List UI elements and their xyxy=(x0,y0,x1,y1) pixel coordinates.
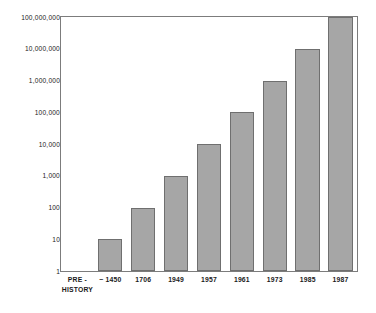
x-tick-label-line: PRE - xyxy=(68,276,87,283)
bars-layer xyxy=(61,17,357,271)
x-tick-label: 1987 xyxy=(324,275,357,285)
x-tick-label-line: 1987 xyxy=(333,276,349,283)
y-tick: 100,000 xyxy=(0,107,68,117)
y-tick: 1,000 xyxy=(0,171,68,181)
bar-slot xyxy=(98,17,122,271)
y-tick-label: 1,000,000 xyxy=(29,77,63,84)
bar[interactable] xyxy=(230,112,254,271)
pi-digits-bar-chart: NUMBER OF DIGITS OF PI 1101001,00010,000… xyxy=(0,0,376,313)
y-tick-label: 100,000 xyxy=(35,109,63,116)
bar[interactable] xyxy=(131,208,155,272)
bar[interactable] xyxy=(263,81,287,272)
y-tick: 10 xyxy=(0,234,68,244)
x-tick-label-line: 1985 xyxy=(300,276,316,283)
bar[interactable] xyxy=(295,49,319,271)
x-tick-label: ~ 1450 xyxy=(94,275,127,285)
x-tick-label-line: ~ 1450 xyxy=(99,276,121,283)
x-tick-label-line: HISTORY xyxy=(61,285,94,295)
x-tick-label: 1985 xyxy=(291,275,324,285)
y-axis-title: NUMBER OF DIGITS OF PI xyxy=(0,0,18,313)
y-tick: 1 xyxy=(0,266,68,276)
bar-slot xyxy=(164,17,188,271)
bar-slot xyxy=(131,17,155,271)
x-tick-label-line: 1949 xyxy=(168,276,184,283)
y-tick: 10,000 xyxy=(0,139,68,149)
x-tick-label: 1957 xyxy=(193,275,226,285)
bar-slot xyxy=(230,17,254,271)
x-tick-label: 1706 xyxy=(127,275,160,285)
bar-slot xyxy=(65,17,89,271)
bar[interactable] xyxy=(197,144,221,271)
bar-slot xyxy=(197,17,221,271)
x-tick-label-line: 1957 xyxy=(201,276,217,283)
y-tick-label: 10,000,000 xyxy=(25,45,63,52)
bar-slot xyxy=(295,17,319,271)
bar[interactable] xyxy=(98,239,122,271)
x-tick-label-line: 1973 xyxy=(267,276,283,283)
bar[interactable] xyxy=(328,17,352,271)
y-tick: 1,000,000 xyxy=(0,76,68,86)
y-tick: 100,000,000 xyxy=(0,12,68,22)
x-tick-label: PRE -HISTORY xyxy=(61,275,94,294)
x-tick-label-line: 1706 xyxy=(135,276,151,283)
x-tick-label: 1973 xyxy=(258,275,291,285)
x-axis-labels: PRE -HISTORY~ 14501706194919571961197319… xyxy=(61,275,357,311)
x-tick-label: 1949 xyxy=(160,275,193,285)
x-tick-label-line: 1961 xyxy=(234,276,250,283)
bar[interactable] xyxy=(164,176,188,271)
y-tick: 100 xyxy=(0,203,68,213)
x-tick-label: 1961 xyxy=(225,275,258,285)
bar-slot xyxy=(263,17,287,271)
y-tick-label: 100,000,000 xyxy=(21,14,63,21)
bar-slot xyxy=(328,17,352,271)
y-tick: 10,000,000 xyxy=(0,44,68,54)
